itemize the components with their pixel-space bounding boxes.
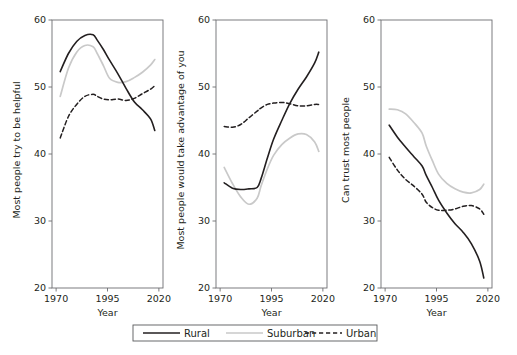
chart-panel-3: 2030405060197019952020YearCan trust most…: [340, 14, 500, 318]
x-tick-label: 1970: [44, 293, 68, 304]
legend: RuralSuburbanUrban: [133, 325, 377, 341]
legend-label: Urban: [346, 328, 376, 339]
y-axis-title: Most people would take advantage of you: [175, 50, 186, 249]
x-axis-title: Year: [425, 307, 446, 318]
x-tick-label: 1995: [424, 293, 448, 304]
y-tick-label: 40: [34, 148, 46, 159]
panel-frame: [216, 20, 327, 288]
y-tick-label: 30: [198, 215, 210, 226]
x-tick-label: 2020: [311, 293, 335, 304]
x-tick-label: 1995: [259, 293, 283, 304]
x-tick-label: 1970: [208, 293, 232, 304]
panel-frame: [52, 20, 163, 288]
y-tick-label: 20: [34, 282, 46, 293]
figure-canvas: 2030405060197019952020YearMost people tr…: [0, 0, 517, 355]
y-tick-label: 40: [363, 148, 375, 159]
x-tick-label: 1995: [95, 293, 119, 304]
x-tick-label: 2020: [476, 293, 500, 304]
y-tick-label: 30: [34, 215, 46, 226]
y-tick-label: 20: [198, 282, 210, 293]
x-tick-label: 2020: [147, 293, 171, 304]
y-axis-title: Most people try to be helpful: [11, 81, 22, 218]
y-tick-label: 60: [34, 14, 46, 25]
y-tick-label: 50: [363, 81, 375, 92]
y-axis-title: Can trust most people: [340, 97, 351, 203]
x-tick-label: 1970: [373, 293, 397, 304]
y-tick-label: 30: [363, 215, 375, 226]
chart-panel-1: 2030405060197019952020YearMost people tr…: [11, 14, 171, 318]
legend-label: Rural: [184, 328, 210, 339]
y-tick-label: 20: [363, 282, 375, 293]
x-axis-title: Year: [260, 307, 281, 318]
chart-panel-2: 2030405060197019952020YearMost people wo…: [175, 14, 335, 318]
y-tick-label: 40: [198, 148, 210, 159]
y-tick-label: 60: [363, 14, 375, 25]
y-tick-label: 50: [198, 81, 210, 92]
y-tick-label: 50: [34, 81, 46, 92]
panel-frame: [381, 20, 492, 288]
x-axis-title: Year: [96, 307, 117, 318]
y-tick-label: 60: [198, 14, 210, 25]
